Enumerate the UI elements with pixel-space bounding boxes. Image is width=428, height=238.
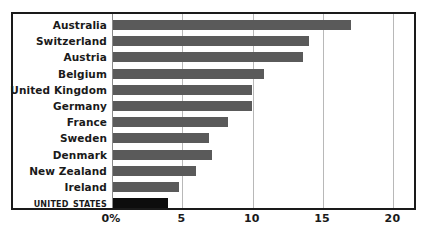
bar: [113, 85, 252, 95]
bar: [113, 101, 252, 111]
x-tick-label: 5: [177, 212, 185, 225]
category-label-column: AustraliaSwitzerlandAustriaBelgiumUnited…: [13, 14, 112, 208]
x-tick-label: 15: [314, 212, 330, 225]
x-tick-label: 10: [244, 212, 260, 225]
category-label: Austria: [64, 49, 107, 65]
bar: [113, 133, 209, 143]
category-label: France: [67, 114, 107, 130]
category-label: Switzerland: [36, 33, 107, 49]
bar: [113, 20, 351, 30]
bar-chart: AustraliaSwitzerlandAustriaBelgiumUnited…: [0, 0, 428, 238]
category-label: Belgium: [58, 66, 107, 82]
category-label: Germany: [53, 98, 107, 114]
bar: [113, 166, 196, 176]
category-label: Australia: [53, 17, 107, 33]
category-label: Sweden: [60, 130, 107, 146]
bar: [113, 182, 179, 192]
plot-area: [112, 14, 414, 208]
bar: [113, 52, 303, 62]
gridline: [323, 14, 324, 208]
plot-frame: AustraliaSwitzerlandAustriaBelgiumUnited…: [11, 12, 416, 210]
bar: [113, 69, 264, 79]
bar: [113, 117, 228, 127]
x-axis-tick-labels: 0%5101520: [11, 212, 416, 234]
category-label: New Zealand: [29, 163, 107, 179]
bar: [113, 198, 168, 208]
category-label: Ireland: [64, 179, 107, 195]
gridline: [393, 14, 394, 208]
category-label: United States: [34, 195, 107, 211]
bar: [113, 150, 212, 160]
category-label: Denmark: [53, 147, 107, 163]
x-tick-label: 0%: [101, 212, 120, 225]
bar: [113, 36, 309, 46]
category-label: United Kingdom: [10, 82, 107, 98]
x-tick-label: 20: [385, 212, 401, 225]
